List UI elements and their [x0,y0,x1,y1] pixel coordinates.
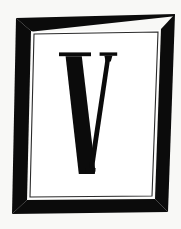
letter-v-right-serif [100,52,118,55]
artboard: V V Monogram Capital letter V inside a s… [0,0,181,229]
frame-bottom-wedge [12,199,168,214]
letter-v-apex [85,168,95,174]
letter-v-left-serif [59,52,91,56]
monogram-artwork [0,0,181,229]
